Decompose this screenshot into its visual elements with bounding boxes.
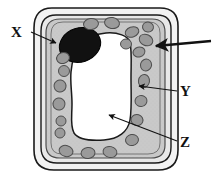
label-z: Z <box>180 135 190 150</box>
label-x: X <box>11 25 22 40</box>
chloroplast <box>121 39 132 49</box>
plant-cell-diagram-canvas: X Y Z <box>0 0 214 181</box>
chloroplast <box>59 66 70 77</box>
chloroplast <box>56 116 66 126</box>
chloroplast <box>55 128 65 138</box>
label-y: Y <box>180 84 191 99</box>
